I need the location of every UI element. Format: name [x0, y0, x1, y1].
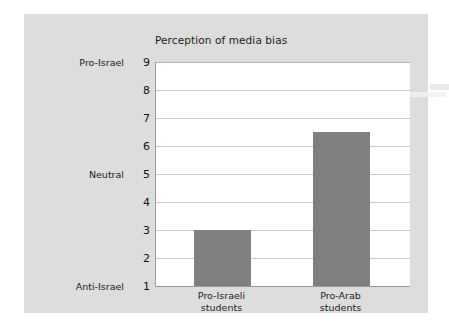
- y-axis-tick-5: 5: [128, 168, 150, 181]
- y-axis-label-neutral: Neutral: [42, 169, 124, 180]
- y-axis-tick-6: 6: [128, 140, 150, 153]
- y-axis-label-anti-israel: Anti-Israel: [42, 281, 124, 292]
- x-axis-label-line-2: students: [169, 302, 274, 314]
- y-axis-tick-4: 4: [128, 196, 150, 209]
- scan-artifact: [430, 84, 449, 90]
- gridline-4: [156, 202, 410, 203]
- x-axis-label-pro-israeli-students: Pro-Israeli students: [169, 290, 274, 314]
- gridline-7: [156, 118, 410, 119]
- gridline-6: [156, 146, 410, 147]
- y-axis-tick-3: 3: [128, 224, 150, 237]
- y-axis-tick-9: 9: [128, 56, 150, 69]
- gridline-5: [156, 174, 410, 175]
- y-axis-label-pro-israel: Pro-Israel: [42, 57, 124, 68]
- x-axis-label-line-2: students: [288, 302, 393, 314]
- plot-area: [155, 62, 410, 287]
- bar-pro-arab-students: [313, 132, 370, 286]
- x-axis-label-line-1: Pro-Arab: [288, 290, 393, 302]
- y-axis-tick-2: 2: [128, 252, 150, 265]
- y-axis-tick-1: 1: [128, 280, 150, 293]
- bar-pro-israeli-students: [194, 230, 251, 286]
- chart-title: Perception of media bias: [155, 34, 287, 46]
- gridline-9: [156, 62, 410, 63]
- y-axis-tick-8: 8: [128, 84, 150, 97]
- x-axis-label-line-1: Pro-Israeli: [169, 290, 274, 302]
- gridline-8: [156, 90, 410, 91]
- y-axis-tick-7: 7: [128, 112, 150, 125]
- x-axis-label-pro-arab-students: Pro-Arab students: [288, 290, 393, 314]
- figure-panel: Perception of media bias 9 8 7 6 5 4 3 2…: [24, 14, 428, 313]
